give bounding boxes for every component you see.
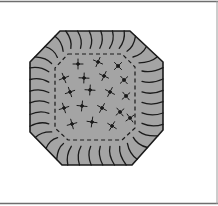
cushion-illustration xyxy=(0,0,218,206)
illustration-frame xyxy=(0,0,218,206)
cushion xyxy=(30,31,163,165)
